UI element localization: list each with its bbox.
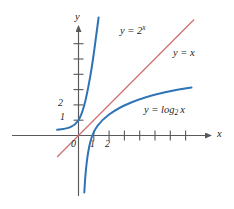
logarithm-curve-label: y = log2x <box>144 105 185 117</box>
exponential-curve-label-exponent: x <box>142 23 145 32</box>
logarithm-curve-label-text: y = log <box>144 104 174 115</box>
exponential-curve-label-text: y = 2 <box>120 25 142 36</box>
y-tick-label-2: 2 <box>58 98 63 108</box>
math-figure: y x 2 1 0 1 2 y = 2x y = x y = log2x <box>0 0 234 209</box>
logarithm-curve <box>84 88 191 193</box>
exponential-curve-label: y = 2x <box>120 24 146 37</box>
identity-line <box>57 20 194 158</box>
identity-line-label: y = x <box>173 48 195 59</box>
y-axis-label: y <box>75 12 80 23</box>
x-axis-label: x <box>217 129 222 140</box>
y-tick-label-1: 1 <box>60 112 65 122</box>
logarithm-curve-label-base: 2 <box>174 108 178 117</box>
logarithm-curve-label-argument: x <box>180 104 185 115</box>
x-tick-label-1: 1 <box>90 139 95 149</box>
plot-canvas <box>0 0 234 209</box>
x-tick-label-0: 0 <box>71 139 76 149</box>
x-tick-label-2: 2 <box>105 139 110 149</box>
